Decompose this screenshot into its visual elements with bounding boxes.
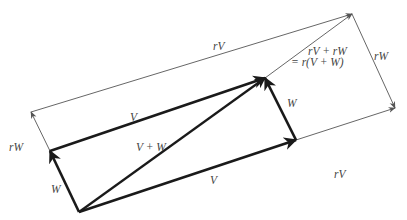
label-rW-right: rW bbox=[374, 50, 389, 62]
V-plus-W-vector bbox=[79, 78, 265, 212]
V-bottom-vector bbox=[79, 140, 296, 212]
rV-bottom-arrow bbox=[296, 108, 395, 140]
label-W-right: W bbox=[287, 97, 298, 109]
rW-left-arrow bbox=[31, 112, 50, 151]
label-rV-top: rV bbox=[213, 40, 226, 52]
W-left-vector bbox=[50, 151, 79, 212]
vector-diagram: rV rV + rW = r(V + W) rW W V rW V + W rV… bbox=[0, 0, 407, 220]
label-W-left: W bbox=[51, 183, 62, 195]
label-rW-left: rW bbox=[9, 141, 24, 153]
W-right-vector bbox=[265, 78, 296, 140]
label-V-plus-W: V + W bbox=[136, 141, 167, 153]
label-V-bottom: V bbox=[210, 174, 219, 186]
label-sum-line2: = r(V + W) bbox=[291, 56, 344, 69]
label-rV-bottom: rV bbox=[334, 168, 347, 180]
